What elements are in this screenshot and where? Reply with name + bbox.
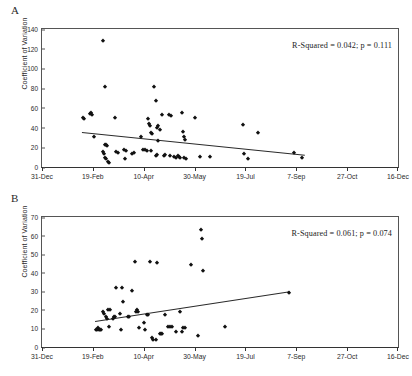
scatter-point [123,157,128,162]
scatter-point [89,112,94,117]
y-axis-tick-label: 50 [31,251,42,258]
y-axis-tick-label: 30 [31,288,42,295]
panel-a-annotation: R-Squared = 0.042; p = 0.111 [292,41,392,50]
panel-b-y-axis-title: Coefficient of Variation [21,178,28,306]
x-axis-tick-label: 19-Jul [236,173,255,180]
x-axis-tick-mark [245,167,246,171]
scatter-point [242,152,247,157]
x-axis-tick-mark [42,167,43,171]
scatter-point [188,263,193,268]
scatter-point [105,317,110,322]
scatter-point [151,85,156,90]
scatter-point [124,149,129,154]
x-axis-tick-label: 27-Oct [337,353,357,360]
scatter-point [163,313,168,318]
panel-b-plot-area: R-Squared = 0.061; p = 0.074 01020304050… [41,216,399,348]
trend-line [95,291,289,322]
y-axis-tick-label: 120 [27,45,42,52]
x-axis-tick-mark [347,347,348,351]
y-axis-tick-label: 20 [31,144,42,151]
x-axis-tick-label: 19-Feb [82,353,104,360]
scatter-point [246,157,251,162]
x-axis-tick-label: 31-Dec [31,353,53,360]
scatter-point [107,324,112,329]
scatter-point [154,99,159,104]
panel-a-y-axis-title: Coefficient of Variation [21,0,28,118]
panel-b-letter: B [11,192,19,204]
x-axis-tick-mark [93,167,94,171]
x-axis-tick-label: 16-Dec [387,353,409,360]
x-axis-tick-mark [397,347,398,351]
y-axis-tick-label: 80 [31,85,42,92]
x-axis-tick-mark [296,347,297,351]
scatter-point [142,328,147,333]
y-axis-tick-label: 100 [27,65,42,72]
x-axis-tick-label: 27-Oct [337,173,357,180]
x-axis-tick-mark [93,347,94,351]
scatter-point [136,326,141,331]
scatter-point [155,261,160,266]
x-axis-tick-mark [397,167,398,171]
scatter-point [198,228,203,233]
scatter-point [147,259,152,264]
scatter-point [287,291,292,296]
y-axis-tick-label: 0 [34,344,42,351]
x-axis-tick-mark [144,347,145,351]
y-axis-tick-label: 40 [31,269,42,276]
panel-a: A Coefficient of Variation R-Squared = 0… [0,0,412,188]
x-axis-tick-mark [296,167,297,171]
x-axis-tick-label: 7-Sep [287,353,305,360]
x-axis-tick-label: 10-Apr [134,353,154,360]
x-axis-tick-label: 16-Dec [387,173,409,180]
x-axis-tick-mark [144,167,145,171]
x-axis-tick-mark [195,167,196,171]
scatter-point [141,320,146,325]
y-axis-tick-label: 10 [31,325,42,332]
scatter-point [103,85,108,90]
x-axis-tick-mark [42,347,43,351]
scatter-point [101,38,106,43]
panel-b-annotation: R-Squared = 0.061; p = 0.074 [292,229,393,238]
scatter-point [180,330,185,335]
scatter-point [174,330,179,335]
scatter-point [145,116,150,121]
scatter-point [197,155,202,160]
scatter-point [170,324,175,329]
y-axis-tick-label: 20 [31,306,42,313]
scatter-point [114,285,119,290]
scatter-point [192,115,197,120]
panel-b: B Coefficient of Variation R-Squared = 0… [0,188,412,376]
scatter-point [129,289,134,294]
y-axis-tick-label: 140 [27,26,42,33]
scatter-point [118,311,123,316]
x-axis-tick-label: 30-May [183,353,206,360]
scatter-point [241,122,246,127]
x-axis-tick-label: 7-Sep [287,173,305,180]
scatter-point [255,130,260,135]
scatter-point [121,300,126,305]
scatter-point [160,112,165,117]
y-axis-tick-label: 60 [31,232,42,239]
scatter-point [223,324,228,329]
scatter-point [183,326,188,331]
scatter-point [120,285,125,290]
x-axis-tick-label: 19-Feb [82,173,104,180]
y-axis-tick-label: 70 [31,214,42,221]
scatter-point [154,337,159,342]
panel-a-letter: A [11,4,19,16]
y-axis-tick-label: 0 [34,164,42,171]
scatter-point [105,144,110,149]
x-axis-tick-mark [245,347,246,351]
scatter-point [169,113,174,118]
scatter-point [119,328,124,333]
x-axis-tick-label: 19-Jul [236,353,255,360]
x-axis-tick-mark [195,347,196,351]
scatter-point [116,151,121,156]
scatter-point [184,157,189,162]
scatter-point [149,132,154,137]
scatter-point [132,259,137,264]
scatter-point [81,116,86,121]
x-axis-tick-label: 30-May [183,173,206,180]
x-axis-tick-mark [347,167,348,171]
x-axis-tick-label: 31-Dec [31,173,53,180]
